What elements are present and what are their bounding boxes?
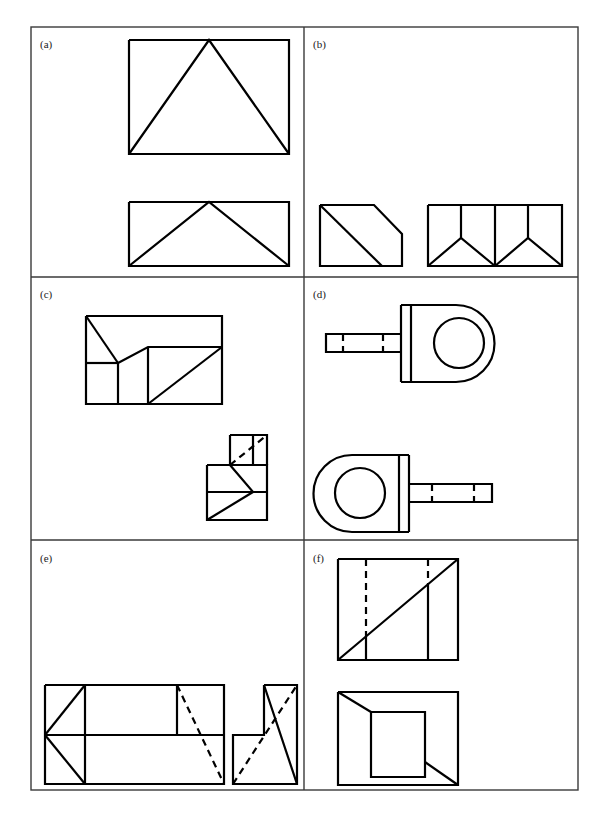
panel-label-b: (b) <box>313 38 326 51</box>
panel-label-c: (c) <box>40 288 53 301</box>
orthographic-projection-figure: (a)(b)(c)(d)(e)(f) <box>0 0 609 834</box>
panel-label-f: (f) <box>313 552 324 565</box>
panel-label-e: (e) <box>40 552 53 565</box>
panel-label-d: (d) <box>313 288 326 301</box>
panel-label-a: (a) <box>40 38 53 51</box>
figure-root: (a)(b)(c)(d)(e)(f) <box>0 0 609 834</box>
